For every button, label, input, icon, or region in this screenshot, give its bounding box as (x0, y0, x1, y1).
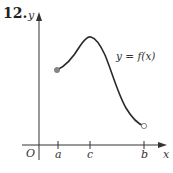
tick-label-b: b (141, 148, 148, 161)
closed-endpoint-a (54, 67, 59, 72)
y-axis-arrow-icon (36, 12, 42, 21)
figure: 12. y x O a c b y = f(x) (0, 0, 173, 173)
origin-label: O (26, 147, 35, 160)
curve-label: y = f(x) (115, 50, 155, 62)
y-axis-label: y (27, 9, 35, 22)
open-endpoint-b (141, 123, 146, 128)
x-axis-label: x (163, 148, 170, 161)
tick-label-a: a (55, 148, 62, 161)
tick-label-c: c (87, 148, 93, 161)
graph: y x O a c b y = f(x) (0, 0, 173, 173)
problem-number: 12. (3, 5, 27, 21)
